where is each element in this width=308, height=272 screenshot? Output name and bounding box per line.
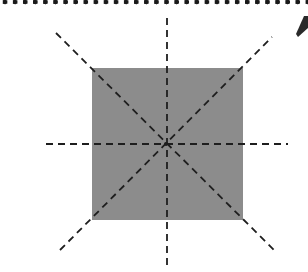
symmetry-diagram [0, 0, 308, 272]
center-point [164, 142, 168, 146]
pointer-wedge-icon [296, 16, 308, 37]
